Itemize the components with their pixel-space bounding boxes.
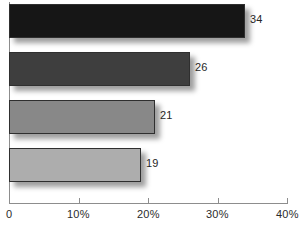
x-axis-tick-label: 20%	[137, 208, 160, 220]
bar-rect[interactable]	[9, 148, 141, 182]
x-axis-tick-label: 40%	[276, 208, 299, 220]
x-axis-tick	[9, 198, 10, 204]
bar-row[interactable]: 19	[9, 148, 181, 182]
bar-chart: 34 26 21 19 0 10% 20% 30% 40%	[0, 0, 302, 229]
plot-area: 34 26 21 19 0 10% 20% 30% 40%	[0, 0, 302, 204]
bar-rect[interactable]	[9, 100, 155, 134]
x-axis-tick-label: 30%	[206, 208, 229, 220]
x-axis-tick	[287, 198, 288, 204]
bar-rect[interactable]	[9, 52, 190, 86]
x-axis-tick	[148, 198, 149, 204]
x-axis-tick	[218, 198, 219, 204]
x-axis-tick-label: 10%	[67, 208, 90, 220]
bar-row[interactable]: 34	[9, 4, 285, 38]
bar-value-label: 19	[146, 157, 159, 169]
x-axis-tick-label: 0	[6, 208, 12, 220]
x-axis-tick	[79, 198, 80, 204]
bar-row[interactable]: 21	[9, 100, 195, 134]
bar-rect[interactable]	[9, 4, 245, 38]
bar-value-label: 21	[160, 109, 173, 121]
bar-value-label: 26	[195, 61, 208, 73]
bar-value-label: 34	[250, 13, 263, 25]
bar-row[interactable]: 26	[9, 52, 230, 86]
